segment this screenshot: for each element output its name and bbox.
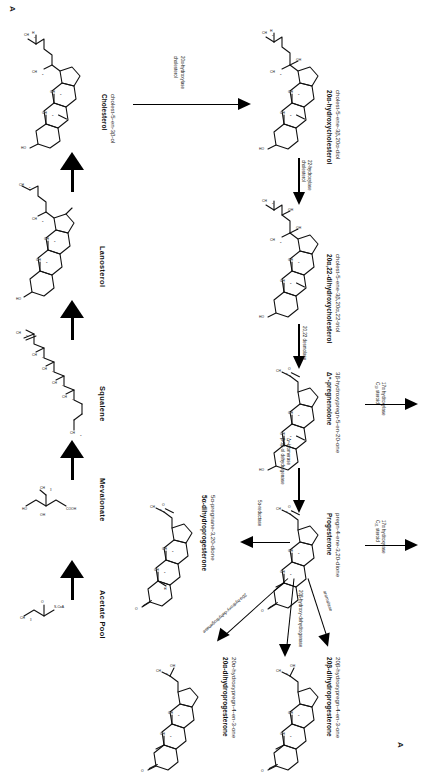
svg-text:COOH: COOH [66,507,77,511]
svg-text:O: O [261,769,264,773]
svg-text:3: 3 [54,240,56,243]
svg-text:3: 3 [170,735,172,738]
svg-text:3: 3 [30,618,32,622]
svg-text:3: 3 [42,73,44,76]
label-5a-dihydroprogesterone-systematic: 5α-pregnane-3,20-dione [207,495,225,561]
structure-cholesterol: CH3 H CH3 CH3 CH3 HO [18,30,100,150]
svg-text:CH: CH [280,432,285,436]
svg-text:O: O [288,367,291,371]
svg-text:3: 3 [52,114,54,117]
arrowhead-20b-dhp [279,644,291,657]
svg-text:CH: CH [50,90,55,94]
enzyme-delta5-isomerase: Δ⁵-isomerase [285,438,291,465]
enzyme-3b-ol-dehydrogenase: β-3β-ol dehydrogenase [279,438,285,484]
svg-text:3: 3 [298,93,300,96]
svg-text:3: 3 [290,282,292,285]
enzyme-cholesterol-20a-hydroxylase: cholesterol [172,56,178,78]
svg-text:OH: OH [296,58,302,62]
svg-text:CH: CH [168,711,173,715]
structure-acetate: CH3 O S-CoA [20,596,78,630]
svg-text:3: 3 [50,488,52,492]
svg-text:CH: CH [276,507,281,511]
svg-text:OH: OH [290,664,296,668]
svg-text:CH: CH [280,570,285,574]
plate-letter-topleft: A [6,6,24,12]
svg-text:H: H [270,29,273,33]
label-20a22-dihydroxycholesterol-systematic: cholest-5-ene-3β,20α,22-triol [332,254,350,332]
svg-text:CH: CH [162,547,167,551]
enzyme-20b-hydroxy-dehydrogenase: 20β-hydroxy-dehydrogenase [297,590,303,647]
enzyme-cholesterol-22-hydroxylase-line2: 22-hydroxylase [306,160,312,191]
svg-text:CH: CH [42,367,47,371]
svg-text:OH: OH [296,226,302,230]
label-20a-hydroxycholesterol-systematic: cholest-5-ene-3β,20α-diol [332,90,350,159]
svg-text:3: 3 [280,73,282,76]
svg-text:CH: CH [32,70,37,74]
svg-text:CH: CH [280,732,285,736]
svg-text:O: O [141,769,144,773]
svg-text:3: 3 [42,220,44,223]
svg-text:CH: CH [52,381,57,385]
svg-text:3: 3 [172,550,174,553]
structure-20a-dihydroprogesterone: CH3 OH CH3 CH3 O [138,660,218,772]
enzyme-2022-desmolase: 20,22 desmolase [301,326,307,360]
svg-text:CH: CH [270,70,275,74]
svg-text:CH: CH [288,711,293,715]
svg-text:HO: HO [21,146,26,150]
svg-text:CH: CH [160,732,165,736]
svg-text:CH: CH [19,183,24,187]
label-20a-dihydroprogesterone-systematic: 20α-hydroxypregn-4-en-3-one [228,657,246,738]
svg-text:O: O [288,505,291,509]
svg-text:CH: CH [24,33,29,37]
svg-text:CH: CH [32,217,37,221]
svg-text:CH: CH [36,258,41,262]
svg-text:3: 3 [164,571,166,574]
svg-text:3: 3 [298,261,300,264]
svg-text:CH: CH [16,331,21,335]
svg-text:CH: CH [62,395,67,399]
svg-text:3: 3 [280,241,282,244]
svg-text:OH: OH [170,664,176,668]
svg-text:CH: CH [156,669,161,673]
svg-text:3: 3 [60,93,62,96]
svg-text:CH: CH [70,431,75,435]
label-cholesterol-systematic: cholest-5-en-3β-ol [107,94,125,143]
label-mevalonate: Mevalonate [96,478,114,522]
svg-text:CH: CH [276,669,281,673]
arrowhead-aromatase [318,632,333,648]
svg-text:3: 3 [298,714,300,717]
svg-text:3: 3 [290,573,292,576]
arrowhead-20a-dhp [212,628,229,646]
svg-text:3: 3 [80,434,82,437]
enzyme-c19-17a-hydroxylase-line2: 17α hydroxylase [380,382,386,416]
plate-letter-bottomright: A [394,742,412,748]
structure-lanosterol: CH3 CH3 CH3 CH3 HO [14,184,94,302]
svg-text:CH: CH [262,199,267,203]
svg-text:HO: HO [22,507,27,511]
svg-text:3: 3 [178,714,180,717]
svg-text:CH: CH [288,90,293,94]
svg-text:3: 3 [290,735,292,738]
svg-text:O: O [41,600,44,604]
svg-text:3: 3 [290,114,292,117]
structure-mevalonate: HO CH3 OH COOH [22,480,82,520]
label-lanosterol: Lanosterol [96,246,114,287]
svg-text:CH: CH [270,238,275,242]
pathway-figure: A A CH3 O S-CoA Acetate Pool HO CH3 OH C [0,0,431,784]
svg-text:CH: CH [288,549,293,553]
svg-text:HO: HO [259,147,264,151]
svg-text:S-CoA: S-CoA [54,605,65,609]
label-progesterone-systematic: pregn-4-ene-3,20-dione [332,513,350,577]
svg-text:CH: CH [262,31,267,35]
structure-squalene: CH3 CH3 CH3 CH3 CH3 CH3 [14,330,90,436]
svg-text:H: H [164,587,167,591]
svg-text:CH: CH [150,505,155,509]
svg-text:CH: CH [280,279,285,283]
svg-text:3: 3 [298,552,300,555]
svg-text:H: H [32,31,35,35]
enzyme-5a-reductase: 5α-reductase [256,500,262,526]
label-pregnenolone-systematic: 3β-hydroxypregn-5-en-20-one [332,372,350,453]
svg-text:O: O [261,609,264,613]
svg-text:HO: HO [16,297,21,301]
svg-text:CH: CH [20,616,25,620]
